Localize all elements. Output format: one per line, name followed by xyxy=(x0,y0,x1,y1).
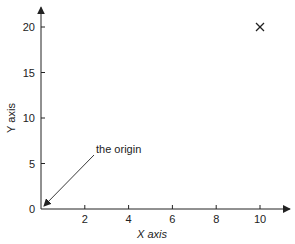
x-marker-point xyxy=(256,23,264,31)
y-tick-label: 15 xyxy=(23,67,35,79)
annotation-arrow xyxy=(44,155,94,206)
y-tick-label: 20 xyxy=(23,21,35,33)
ticks: 24681005101520 xyxy=(23,21,266,225)
x-tick-label: 10 xyxy=(254,213,266,225)
annotations: the origin xyxy=(44,143,141,206)
axes xyxy=(41,7,290,209)
x-tick-label: 2 xyxy=(82,213,88,225)
chart: 24681005101520 the origin X axis Y axis xyxy=(0,0,295,244)
data-marks xyxy=(256,23,264,31)
x-tick-label: 6 xyxy=(169,213,175,225)
y-axis-label: Y axis xyxy=(5,103,17,133)
y-tick-label: 5 xyxy=(29,158,35,170)
x-axis-label: X axis xyxy=(136,228,167,240)
y-tick-label: 10 xyxy=(23,112,35,124)
x-tick-label: 8 xyxy=(213,213,219,225)
x-tick-label: 4 xyxy=(126,213,132,225)
annotation-label: the origin xyxy=(96,143,141,155)
y-tick-label: 0 xyxy=(29,203,35,215)
